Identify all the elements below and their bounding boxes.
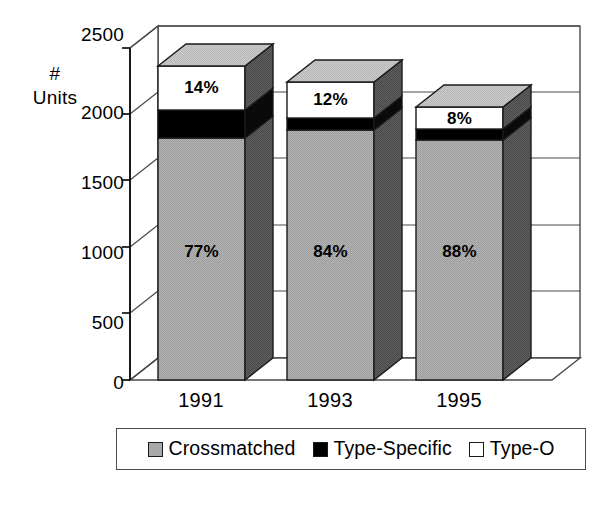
bar-1991-segment-crossmatched-side (245, 116, 273, 380)
bar-1995 (416, 85, 531, 380)
bar-1993-label-crossmatched: 84% (286, 243, 375, 260)
bar-1993-label-type-o: 12% (286, 91, 375, 108)
bar-1993-segment-type-specific (287, 118, 374, 130)
legend-swatch-type-specific-icon (313, 442, 328, 457)
legend-item-type-specific: Type-Specific (313, 439, 452, 459)
x-tick-1995: 1995 (414, 390, 504, 410)
bar-1995-segment-type-specific (416, 129, 503, 140)
bar-1995-segment-crossmatched-side (503, 118, 531, 380)
x-tick-1991: 1991 (156, 390, 246, 410)
x-tick-1993: 1993 (285, 390, 375, 410)
legend-label-crossmatched: Crossmatched (169, 439, 296, 459)
chart-figure: # Units 2500 2000 1500 1000 500 0 (0, 0, 608, 508)
y-axis-ticks (122, 48, 130, 380)
legend-label-type-o: Type-O (490, 439, 555, 459)
legend-label-type-specific: Type-Specific (334, 439, 452, 459)
bar-1995-label-type-o: 8% (415, 110, 504, 127)
chart-legend: Crossmatched Type-Specific Type-O (116, 428, 586, 470)
legend-swatch-crossmatched-icon (148, 442, 163, 457)
legend-item-type-o: Type-O (469, 439, 555, 459)
bar-1993-segment-crossmatched-side (374, 108, 402, 380)
legend-swatch-type-o-icon (469, 442, 484, 457)
bar-1995-label-crossmatched: 88% (415, 243, 504, 260)
bar-1991-label-type-o: 14% (157, 79, 246, 96)
legend-item-crossmatched: Crossmatched (148, 439, 296, 459)
bar-1991-segment-type-specific (158, 110, 245, 138)
bar-1991-label-crossmatched: 77% (157, 243, 246, 260)
